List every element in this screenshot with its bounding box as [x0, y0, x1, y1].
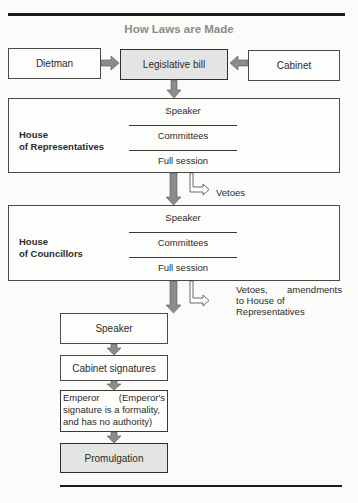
arrow-down-icon — [166, 281, 181, 313]
arrow-down-icon — [166, 173, 181, 205]
flow-arrows — [0, 0, 358, 503]
arrow-down-icon — [107, 344, 121, 355]
arrow-down-icon — [107, 381, 121, 390]
hook-arrow-icon — [190, 281, 209, 306]
arrow-right-icon — [101, 56, 119, 70]
arrow-left-icon — [230, 56, 248, 70]
arrow-down-icon — [107, 432, 121, 443]
hook-arrow-icon — [190, 173, 209, 195]
arrow-down-icon — [167, 80, 181, 98]
